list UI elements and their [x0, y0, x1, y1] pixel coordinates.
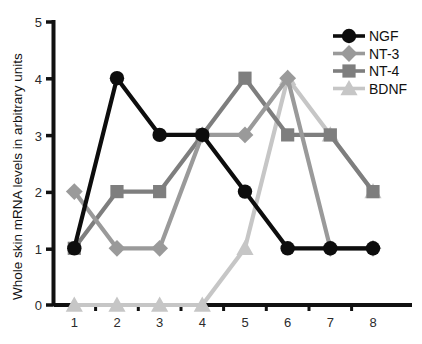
x-tick-label: 4: [199, 315, 206, 330]
y-tick-label: 0: [35, 298, 42, 313]
data-point-nt-4-8: [366, 185, 379, 198]
data-point-nt-4-5: [238, 72, 251, 85]
x-tick-label: 8: [369, 315, 376, 330]
data-point-ngf-7: [323, 241, 337, 255]
x-tick-label: 6: [284, 315, 291, 330]
data-point-nt-4-7: [324, 128, 337, 141]
legend-label-nt-3: NT-3: [369, 46, 400, 62]
x-tick-label: 1: [71, 315, 78, 330]
legend-label-nt-4: NT-4: [369, 63, 400, 79]
data-point-ngf-3: [152, 128, 166, 142]
y-axis-title: Whole skin mRNA levels in arbitrary unit…: [10, 53, 25, 300]
data-point-nt-4-2: [110, 185, 123, 198]
legend-marker-ngf: [342, 29, 356, 43]
legend-marker-nt-3: [341, 45, 358, 62]
data-point-nt-3-3: [151, 240, 168, 257]
x-tick-label: 5: [241, 315, 248, 330]
data-point-ngf-4: [195, 128, 209, 142]
chart-plot-area: Whole skin mRNA levels in arbitrary unit…: [0, 0, 422, 344]
data-point-ngf-1: [67, 241, 81, 255]
legend-marker-nt-4: [342, 64, 355, 77]
y-tick-label: 5: [35, 15, 42, 30]
x-axis-tick-labels: 1 2 3 4 5 6 7 8: [71, 315, 377, 330]
x-tick-label: 3: [156, 315, 163, 330]
chart-legend: NGFNT-3NT-4BDNF: [333, 28, 407, 97]
data-point-ngf-5: [238, 184, 252, 198]
data-point-nt-4-3: [153, 185, 166, 198]
data-point-ngf-8: [366, 241, 380, 255]
legend-label-bdnf: BDNF: [369, 81, 407, 97]
legend-label-ngf: NGF: [369, 28, 399, 44]
x-tick-label: 7: [327, 315, 334, 330]
series-ngf: [67, 71, 380, 256]
data-point-ngf-2: [110, 71, 124, 85]
y-tick-label: 1: [35, 242, 42, 257]
data-point-bdnf-5: [236, 240, 253, 255]
y-tick-label: 3: [35, 129, 42, 144]
y-tick-label: 2: [35, 185, 42, 200]
y-axis-tick-labels: 5 4 3 2 1 0: [35, 15, 42, 313]
chart-figure: Whole skin mRNA levels in arbitrary unit…: [0, 0, 422, 344]
data-point-nt-4-6: [281, 128, 294, 141]
data-series-layer: [66, 70, 382, 312]
data-point-ngf-6: [280, 241, 294, 255]
y-tick-label: 4: [35, 72, 42, 87]
x-tick-label: 2: [113, 315, 120, 330]
